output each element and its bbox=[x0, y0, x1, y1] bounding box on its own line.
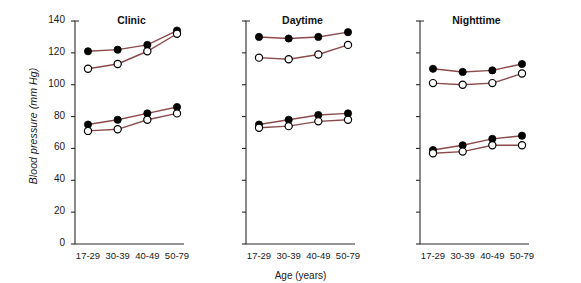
data-point-hollow bbox=[173, 30, 180, 37]
chart-figure: Blood pressure (mm Hg) 02040608010012014… bbox=[0, 0, 581, 283]
series-line bbox=[259, 45, 348, 59]
y-axis-tick-label: 100 bbox=[33, 78, 65, 89]
data-point-hollow bbox=[518, 70, 525, 77]
data-point-filled bbox=[114, 116, 121, 123]
panel-title-clinic: Clinic bbox=[77, 14, 186, 26]
y-axis-tick-label: 80 bbox=[33, 110, 65, 121]
data-point-hollow bbox=[489, 142, 496, 149]
data-point-hollow bbox=[285, 56, 292, 63]
data-point-hollow bbox=[255, 54, 262, 61]
data-point-filled bbox=[114, 46, 121, 53]
data-point-hollow bbox=[285, 123, 292, 130]
y-axis-tick-label: 40 bbox=[33, 173, 65, 184]
y-axis-tick-label: 140 bbox=[33, 14, 65, 25]
series-line bbox=[88, 34, 177, 69]
axis-spine bbox=[420, 21, 529, 244]
series-line bbox=[433, 64, 522, 72]
series-line bbox=[433, 145, 522, 153]
data-point-filled bbox=[429, 65, 436, 72]
data-point-filled bbox=[518, 132, 525, 139]
data-point-hollow bbox=[84, 127, 91, 134]
series-line bbox=[259, 120, 348, 128]
y-axis-tick-label: 60 bbox=[33, 141, 65, 152]
plot-canvas bbox=[0, 0, 581, 283]
data-point-hollow bbox=[84, 65, 91, 72]
data-point-hollow bbox=[459, 148, 466, 155]
series-line bbox=[433, 74, 522, 85]
data-point-hollow bbox=[144, 48, 151, 55]
data-point-hollow bbox=[429, 80, 436, 87]
data-point-filled bbox=[459, 68, 466, 75]
axis-spine bbox=[246, 21, 355, 244]
data-point-hollow bbox=[114, 126, 121, 133]
data-point-hollow bbox=[144, 116, 151, 123]
data-point-hollow bbox=[315, 51, 322, 58]
data-point-hollow bbox=[344, 116, 351, 123]
x-axis-tick-label: 50-79 bbox=[500, 250, 544, 261]
series-line bbox=[259, 32, 348, 38]
y-axis-tick-label: 120 bbox=[33, 46, 65, 57]
data-point-hollow bbox=[315, 118, 322, 125]
data-point-filled bbox=[518, 60, 525, 67]
data-point-hollow bbox=[114, 60, 121, 67]
x-axis-tick-label: 50-79 bbox=[155, 250, 199, 261]
data-point-filled bbox=[285, 35, 292, 42]
data-point-hollow bbox=[255, 124, 262, 131]
y-axis-tick-label: 0 bbox=[33, 237, 65, 248]
data-point-filled bbox=[315, 33, 322, 40]
panel-title-daytime: Daytime bbox=[248, 14, 357, 26]
data-point-filled bbox=[84, 48, 91, 55]
data-point-hollow bbox=[518, 142, 525, 149]
series-line bbox=[259, 113, 348, 124]
data-point-filled bbox=[255, 33, 262, 40]
data-point-filled bbox=[489, 67, 496, 74]
data-point-hollow bbox=[489, 80, 496, 87]
data-point-filled bbox=[344, 29, 351, 36]
x-axis-title: Age (years) bbox=[246, 270, 355, 281]
data-point-hollow bbox=[344, 41, 351, 48]
panel-title-nighttime: Nighttime bbox=[422, 14, 531, 26]
x-axis-tick-label: 50-79 bbox=[326, 250, 370, 261]
data-point-hollow bbox=[173, 110, 180, 117]
data-point-hollow bbox=[459, 81, 466, 88]
data-point-hollow bbox=[429, 150, 436, 157]
y-axis-tick-label: 20 bbox=[33, 205, 65, 216]
